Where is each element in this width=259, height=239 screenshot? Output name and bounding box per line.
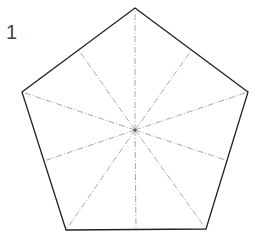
center-point: [134, 129, 137, 132]
pentagon-diagram: [0, 0, 259, 239]
